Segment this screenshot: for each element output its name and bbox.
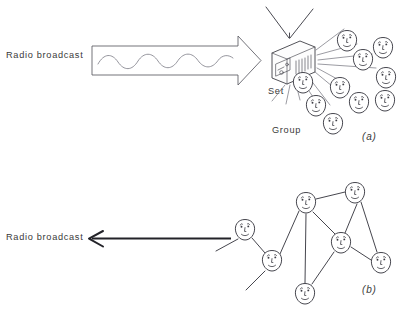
radio-broadcast-label-b: Radio broadcast xyxy=(6,232,83,242)
network-node xyxy=(345,183,364,204)
panel-letter-a: (a) xyxy=(362,131,377,142)
panel-a: Radio broadcast xyxy=(6,7,396,142)
face-glyph xyxy=(323,114,342,135)
face-glyph xyxy=(373,38,392,59)
radio-broadcast-label-a: Radio broadcast xyxy=(6,50,83,60)
network-node xyxy=(296,193,315,214)
network-node xyxy=(235,220,254,241)
diagram-canvas: Radio broadcast xyxy=(0,0,400,312)
face-glyph xyxy=(349,93,368,114)
face-glyph xyxy=(376,68,395,89)
figure-root: Radio broadcast xyxy=(0,0,400,312)
face-glyph xyxy=(330,78,349,99)
face-glyph xyxy=(353,50,372,71)
face-glyph xyxy=(293,73,312,94)
network-node xyxy=(331,233,350,254)
face-glyph xyxy=(375,91,394,112)
network-edges xyxy=(216,192,377,290)
network-node xyxy=(295,284,314,305)
broadcast-block-arrow xyxy=(92,36,261,85)
face-glyph xyxy=(306,96,325,117)
group-label: Group xyxy=(272,125,301,135)
network-node xyxy=(371,253,390,274)
panel-b: Radio broadcast xyxy=(6,183,391,305)
network-output-arrow xyxy=(89,231,231,247)
set-label: Set xyxy=(268,86,284,96)
network-node xyxy=(262,251,281,272)
face-glyph xyxy=(337,31,356,52)
radio-set xyxy=(266,7,315,84)
panel-letter-b: (b) xyxy=(362,284,377,295)
